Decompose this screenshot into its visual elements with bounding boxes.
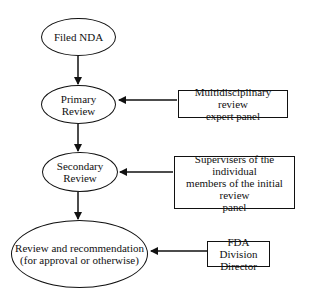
expert-panel-line1: Multidisciplinary review — [179, 86, 287, 110]
division-director-line2: Director — [208, 260, 269, 272]
supervisers-line2: members of the initial — [175, 177, 294, 189]
final-review-label-line2: (for approval or otherwise) — [15, 254, 144, 266]
expert-panel-line2: expert panel — [179, 110, 287, 122]
primary-review-node: Primary Review — [41, 85, 116, 124]
filed-nda-label: Filed NDA — [54, 31, 103, 43]
supervisers-line1: Supervisers of the individual — [175, 153, 294, 177]
secondary-review-label-line1: Secondary — [57, 160, 103, 172]
supervisers-line3: review — [175, 189, 294, 201]
division-director-line1: FDA Division — [208, 236, 269, 260]
supervisers-box: Supervisers of the individual members of… — [174, 156, 295, 209]
final-review-label-line1: Review and recommendation — [15, 242, 144, 254]
secondary-review-label-line2: Review — [57, 172, 103, 184]
division-director-box: FDA Division Director — [207, 241, 270, 267]
primary-review-label-line2: Review — [61, 105, 96, 117]
filed-nda-node: Filed NDA — [41, 18, 116, 56]
primary-review-label-line1: Primary — [61, 93, 96, 105]
expert-panel-box: Multidisciplinary review expert panel — [178, 90, 288, 118]
secondary-review-node: Secondary Review — [42, 152, 118, 192]
final-review-node: Review and recommendation (for approval … — [11, 220, 148, 288]
supervisers-line4: panel — [175, 201, 294, 213]
